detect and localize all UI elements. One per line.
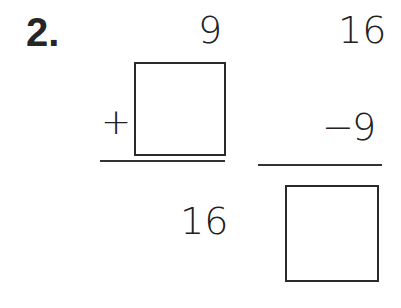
subtraction-minuend: 16 — [338, 11, 386, 49]
addition-answer-box[interactable] — [134, 62, 226, 156]
subtraction-answer-box[interactable] — [285, 185, 379, 282]
addition-rule — [100, 160, 225, 162]
subtraction-operator-minus: − — [322, 108, 354, 146]
addition-addend-top: 9 — [198, 11, 222, 49]
addition-operator-plus: + — [101, 104, 131, 140]
problem-number: 2. — [26, 12, 59, 52]
subtraction-subtrahend: 9 — [352, 108, 376, 146]
addition-sum: 16 — [180, 202, 228, 240]
subtraction-rule — [258, 164, 382, 166]
